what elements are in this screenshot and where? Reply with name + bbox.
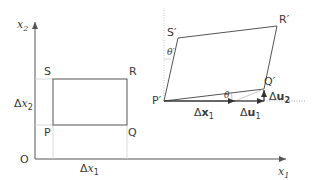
width-label: Δx1 (80, 162, 99, 177)
guide-lines (35, 79, 127, 159)
vertex-s-label: S (44, 65, 51, 78)
vertex-q-prime-label: Q′ (264, 75, 276, 88)
angle-theta-label: θ (224, 90, 230, 100)
x2-axis-label: x2 (17, 18, 28, 33)
vertex-q-label: Q (128, 126, 137, 139)
vertex-r-prime-label: R′ (279, 13, 290, 26)
vector-du2-label: Δu2 (269, 90, 290, 105)
angle-theta-prime-label: θ′ (167, 47, 174, 57)
origin-label: O (20, 153, 29, 166)
vector-du1-label: Δu1 (240, 106, 260, 121)
deformed-element: P′ Q′ R′ S′ θ′ θ Δx1 Δu1 Δu2 (152, 8, 306, 121)
original-element: S R P Q Δx2 Δx1 (14, 65, 137, 177)
vector-dx1-label: Δx1 (194, 106, 214, 121)
original-rectangle (53, 79, 127, 125)
deformed-parallelogram (164, 26, 277, 101)
deformation-diagram: O x2 x1 S R P Q Δx2 Δx1 (0, 0, 316, 180)
vertex-p-prime-label: P′ (152, 94, 162, 107)
vertex-r-label: R (129, 65, 137, 78)
vertex-p-label: P (44, 126, 51, 139)
x1-axis-label: x1 (278, 165, 289, 180)
vertex-s-prime-label: S′ (167, 26, 177, 39)
angle-theta-arc (232, 93, 233, 101)
height-label: Δx2 (14, 97, 33, 112)
